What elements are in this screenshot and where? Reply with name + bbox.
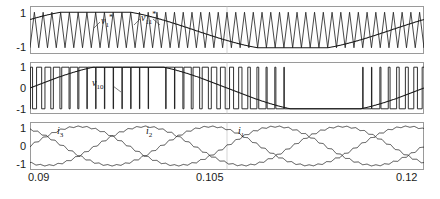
panel2-ytick-1: 1 <box>20 62 26 73</box>
panel-phase-currents: 1 0 -1 <box>30 122 424 170</box>
xtick-0: 0.09 <box>28 172 49 183</box>
panel-switching-voltage: 1 0 -1 <box>30 62 424 114</box>
xtick-2: 0.12 <box>396 172 417 183</box>
panel2-ytick-minus1: -1 <box>16 103 26 114</box>
panel2-traces <box>30 62 424 114</box>
panel1-traces <box>30 6 424 54</box>
curve-label-i3: i3 <box>57 126 63 139</box>
curve-label-v1-star: v1* <box>101 14 113 29</box>
panel3-traces <box>30 122 424 170</box>
panel1-ytick-minus1: -1 <box>16 42 26 53</box>
panel-carrier-reference: 1 -1 <box>30 6 424 54</box>
waveform-figure: 1 -1 1 0 -1 1 0 -1 0.09 0.105 0.12 v1*v1… <box>0 0 440 199</box>
curve-label-v11-star: v11* <box>141 11 156 26</box>
panel3-ytick-minus1: -1 <box>16 159 26 170</box>
xtick-1: 0.105 <box>196 172 224 183</box>
panel2-ytick-0: 0 <box>20 83 26 94</box>
panel3-ytick-0: 0 <box>20 141 26 152</box>
panel3-ytick-1: 1 <box>20 122 26 133</box>
curve-label-i1: i1 <box>238 126 244 139</box>
curve-label-i2: i2 <box>146 126 152 139</box>
panel1-ytick-1: 1 <box>20 7 26 18</box>
curve-label-v10: v10 <box>92 78 103 91</box>
